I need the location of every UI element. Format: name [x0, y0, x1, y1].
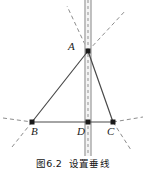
point-label-c: C	[107, 126, 114, 137]
point-marker-a[interactable]	[86, 49, 91, 54]
point-label-a: A	[68, 41, 75, 52]
dashed-baseline-extension-right	[113, 117, 143, 122]
dashed-baseline-extension-left	[3, 118, 32, 122]
dashed-extension-ab-below-b	[12, 122, 32, 147]
geometry-figure-canvas	[0, 0, 146, 174]
point-marker-c[interactable]	[111, 120, 116, 125]
vertex-markers	[30, 49, 116, 125]
figure-container: A B D C 图6.2设置垂线	[0, 0, 146, 174]
figure-caption: 图6.2设置垂线	[0, 157, 146, 170]
figure-caption-text: 设置垂线	[69, 158, 110, 169]
dashed-construction-upright-from-a	[88, 10, 126, 51]
segment-ab	[32, 51, 88, 122]
point-label-b: B	[31, 126, 38, 137]
segment-ac	[88, 51, 113, 122]
point-marker-d[interactable]	[86, 120, 91, 125]
dashed-extension-ac-below-c	[113, 122, 131, 150]
triangle-solid-edges	[32, 51, 113, 122]
dashed-construction-lines	[3, 6, 143, 150]
perpendicular-guide-band[interactable]	[85, 0, 92, 156]
figure-caption-number: 图6.2	[36, 158, 62, 169]
point-label-d: D	[77, 126, 85, 137]
point-marker-b[interactable]	[30, 120, 35, 125]
